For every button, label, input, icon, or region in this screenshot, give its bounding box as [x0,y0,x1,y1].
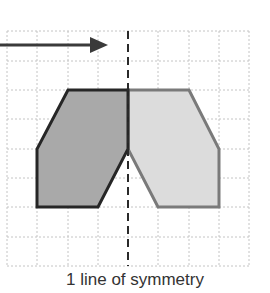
shape-left-half [37,90,128,207]
shape-right-half [128,90,219,207]
arrow-right-icon [0,37,108,53]
diagram-caption: 1 line of symmetry [0,266,270,293]
symmetry-diagram [0,0,270,293]
